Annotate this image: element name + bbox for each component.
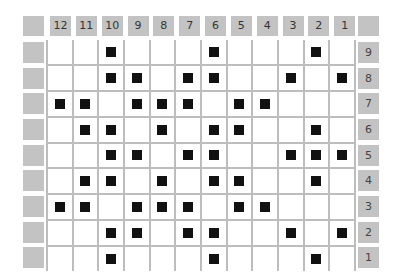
empty-cell	[305, 221, 329, 245]
empty-cell	[125, 40, 149, 64]
row-label-9: 9	[358, 42, 379, 63]
empty-cell	[279, 118, 303, 142]
filled-cell	[202, 118, 226, 142]
empty-cell	[228, 144, 252, 168]
empty-cell	[228, 221, 252, 245]
empty-cell	[202, 195, 226, 219]
empty-cell	[151, 40, 175, 64]
filled-cell	[176, 195, 200, 219]
empty-cell	[253, 40, 277, 64]
filled-cell	[151, 92, 175, 116]
empty-cell	[253, 169, 277, 193]
filled-cell	[99, 247, 123, 271]
empty-cell	[330, 92, 354, 116]
left-marker	[23, 247, 44, 268]
corner-top-left	[23, 16, 44, 36]
filled-cell	[202, 221, 226, 245]
filled-cell	[305, 144, 329, 168]
empty-cell	[202, 92, 226, 116]
empty-cell	[176, 169, 200, 193]
filled-cell	[125, 144, 149, 168]
empty-cell	[151, 221, 175, 245]
filled-cell	[48, 195, 72, 219]
row-label-6: 6	[358, 119, 379, 140]
filled-cell	[228, 118, 252, 142]
empty-cell	[151, 144, 175, 168]
empty-cell	[48, 40, 72, 64]
empty-cell	[330, 169, 354, 193]
empty-cell	[330, 118, 354, 142]
left-marker	[23, 170, 44, 191]
empty-cell	[305, 195, 329, 219]
empty-cell	[74, 66, 98, 90]
empty-cell	[176, 118, 200, 142]
filled-cell	[279, 144, 303, 168]
empty-cell	[125, 118, 149, 142]
empty-cell	[48, 118, 72, 142]
filled-cell	[99, 66, 123, 90]
filled-cell	[228, 92, 252, 116]
filled-cell	[253, 92, 277, 116]
column-label-12: 12	[50, 16, 71, 36]
filled-cell	[228, 169, 252, 193]
left-marker	[23, 119, 44, 140]
left-marker	[23, 68, 44, 89]
empty-cell	[125, 169, 149, 193]
empty-cell	[330, 195, 354, 219]
empty-cell	[125, 247, 149, 271]
empty-cell	[151, 66, 175, 90]
empty-cell	[253, 144, 277, 168]
column-label-9: 9	[128, 16, 149, 36]
left-marker	[23, 93, 44, 114]
filled-cell	[74, 118, 98, 142]
filled-cell	[305, 40, 329, 64]
empty-cell	[228, 247, 252, 271]
row-label-3: 3	[358, 196, 379, 217]
filled-cell	[330, 144, 354, 168]
empty-cell	[48, 247, 72, 271]
filled-cell	[202, 66, 226, 90]
filled-cell	[176, 92, 200, 116]
empty-cell	[330, 247, 354, 271]
filled-cell	[48, 92, 72, 116]
filled-cell	[305, 247, 329, 271]
column-label-3: 3	[283, 16, 304, 36]
column-label-5: 5	[231, 16, 252, 36]
filled-cell	[74, 92, 98, 116]
filled-cell	[305, 169, 329, 193]
empty-cell	[74, 221, 98, 245]
left-marker	[23, 42, 44, 63]
chart-grid	[46, 40, 356, 271]
filled-cell	[305, 118, 329, 142]
empty-cell	[279, 40, 303, 64]
empty-cell	[99, 195, 123, 219]
row-label-7: 7	[358, 93, 379, 114]
filled-cell	[99, 40, 123, 64]
filled-cell	[99, 221, 123, 245]
column-label-6: 6	[205, 16, 226, 36]
filled-cell	[176, 144, 200, 168]
filled-cell	[228, 195, 252, 219]
empty-cell	[176, 40, 200, 64]
filled-cell	[99, 118, 123, 142]
filled-cell	[151, 195, 175, 219]
empty-cell	[253, 66, 277, 90]
filled-cell	[125, 195, 149, 219]
empty-cell	[228, 66, 252, 90]
row-label-4: 4	[358, 170, 379, 191]
empty-cell	[253, 118, 277, 142]
filled-cell	[279, 66, 303, 90]
empty-cell	[48, 66, 72, 90]
filled-cell	[125, 66, 149, 90]
column-label-8: 8	[153, 16, 174, 36]
filled-cell	[202, 40, 226, 64]
filled-cell	[74, 169, 98, 193]
filled-cell	[253, 195, 277, 219]
column-label-1: 1	[334, 16, 355, 36]
empty-cell	[151, 247, 175, 271]
empty-cell	[253, 247, 277, 271]
column-label-2: 2	[308, 16, 329, 36]
row-label-2: 2	[358, 222, 379, 243]
column-label-10: 10	[102, 16, 123, 36]
empty-cell	[74, 144, 98, 168]
